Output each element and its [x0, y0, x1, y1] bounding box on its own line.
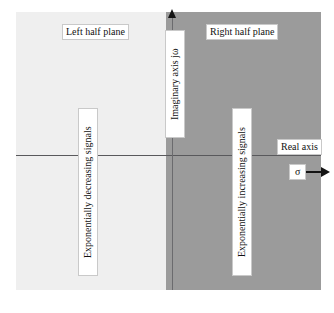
real-axis-arrow-shaft-icon: [306, 171, 322, 173]
right-half-plane-label: Right half plane: [206, 24, 278, 40]
exponentially-decreasing-signals-label: Exponentially decreasing signals: [78, 108, 98, 276]
left-half-plane-label: Left half plane: [62, 24, 129, 40]
real-axis-arrow-head-icon: [321, 167, 330, 177]
real-axis-label: Real axis: [277, 139, 322, 155]
exponentially-increasing-signals-label: Exponentially increasing signals: [232, 108, 252, 276]
real-axis-line: [16, 155, 321, 156]
sigma-symbol-label: σ: [289, 164, 306, 180]
imaginary-axis-arrow-icon: [168, 9, 176, 18]
s-plane-diagram: Left half plane Right half plane Imagina…: [0, 0, 334, 313]
imaginary-axis-label: Imaginary axis jω: [165, 30, 185, 138]
